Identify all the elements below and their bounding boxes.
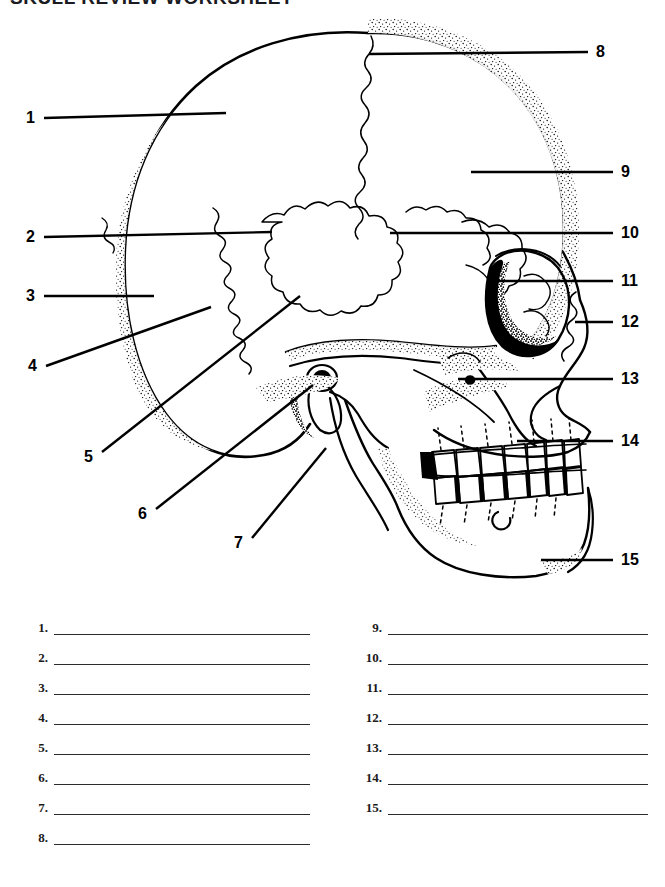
answer-blanks-left-column: 1.2.3.4.5.6.7.8. — [22, 608, 332, 848]
callout-number-13: 13 — [621, 371, 639, 387]
answer-number: 3. — [22, 680, 54, 698]
answer-row: 5. — [22, 728, 332, 758]
answer-number: 7. — [22, 800, 54, 818]
answer-number: 14. — [352, 770, 388, 788]
callout-number-4: 4 — [28, 358, 37, 374]
callout-number-11: 11 — [621, 273, 638, 289]
answer-row: 10. — [352, 638, 662, 668]
answer-blank-line[interactable] — [54, 843, 310, 845]
answer-number: 2. — [22, 650, 54, 668]
callout-number-1: 1 — [26, 110, 35, 126]
answer-blank-line[interactable] — [388, 633, 648, 635]
answer-row: 12. — [352, 698, 662, 728]
callout-number-5: 5 — [84, 449, 93, 465]
callout-number-14: 14 — [621, 433, 639, 449]
answer-row: 1. — [22, 608, 332, 638]
answer-blank-line[interactable] — [54, 663, 310, 665]
answer-number: 13. — [352, 740, 388, 758]
answer-number: 11. — [352, 680, 388, 698]
leader-line-1 — [44, 113, 226, 118]
answer-row: 7. — [22, 788, 332, 818]
callout-number-9: 9 — [621, 164, 630, 180]
answer-number: 5. — [22, 740, 54, 758]
answer-number: 6. — [22, 770, 54, 788]
answer-row: 8. — [22, 818, 332, 848]
leader-line-6 — [156, 385, 313, 509]
answer-row: 6. — [22, 758, 332, 788]
answer-blank-line[interactable] — [388, 753, 648, 755]
callout-number-3: 3 — [26, 288, 35, 304]
answer-number: 4. — [22, 710, 54, 728]
answer-number: 9. — [352, 620, 388, 638]
answer-number: 10. — [352, 650, 388, 668]
callout-number-15: 15 — [621, 552, 639, 568]
answer-blank-line[interactable] — [54, 633, 310, 635]
answer-number: 15. — [352, 800, 388, 818]
callout-number-8: 8 — [596, 44, 605, 60]
answer-row: 2. — [22, 638, 332, 668]
callout-number-7: 7 — [234, 535, 243, 551]
answer-row: 11. — [352, 668, 662, 698]
skull-lateral-view-svg — [0, 0, 665, 600]
answer-row: 4. — [22, 698, 332, 728]
answer-blanks-right-column: 9.10.11.12.13.14.15. — [352, 608, 662, 818]
callout-number-2: 2 — [26, 229, 35, 245]
answer-blank-line[interactable] — [54, 783, 310, 785]
answer-row: 14. — [352, 758, 662, 788]
worksheet-page: SKULL REVIEW WORKSHEET — [0, 0, 665, 887]
answer-row: 9. — [352, 608, 662, 638]
answer-blank-line[interactable] — [54, 723, 310, 725]
answer-number: 12. — [352, 710, 388, 728]
answer-blank-line[interactable] — [54, 753, 310, 755]
answer-blank-line[interactable] — [388, 783, 648, 785]
skull-diagram: 123456789101112131415 — [0, 0, 665, 600]
answer-blank-line[interactable] — [388, 723, 648, 725]
answer-blank-line[interactable] — [388, 693, 648, 695]
answer-blank-line[interactable] — [54, 693, 310, 695]
callout-number-10: 10 — [621, 225, 639, 241]
leader-line-2 — [44, 232, 272, 237]
answer-number: 1. — [22, 620, 54, 638]
callout-number-6: 6 — [138, 506, 147, 522]
answer-row: 3. — [22, 668, 332, 698]
answer-number: 8. — [22, 830, 54, 848]
answer-blank-line[interactable] — [388, 813, 648, 815]
leader-line-8 — [369, 52, 588, 54]
answer-blank-line[interactable] — [54, 813, 310, 815]
leader-line-7 — [252, 448, 326, 538]
answer-row: 13. — [352, 728, 662, 758]
answer-row: 15. — [352, 788, 662, 818]
callout-number-12: 12 — [621, 314, 639, 330]
answer-blank-line[interactable] — [388, 663, 648, 665]
